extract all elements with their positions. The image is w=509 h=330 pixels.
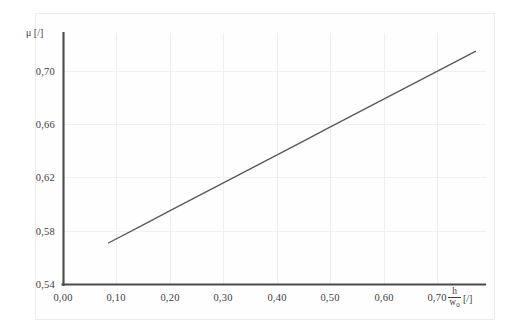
x-tick-label: 0,20 [150, 292, 190, 303]
axis-lines [63, 33, 486, 285]
x-tick-label: 0,60 [364, 292, 404, 303]
x-tick-label: 0,10 [96, 292, 136, 303]
y-tick-label: 0,66 [21, 119, 55, 130]
chart-figure: μ [/] 0,70 0,66 0,62 0,58 0,54 0,00 0,10… [0, 0, 509, 330]
x-tick-label: 0,00 [43, 292, 83, 303]
data-series-line [108, 51, 475, 243]
horizontal-gridlines [63, 72, 486, 232]
x-axis-title-numerator: h [450, 287, 459, 297]
y-tick-label: 0,54 [21, 279, 55, 290]
y-tick-label: 0,70 [21, 66, 55, 77]
y-tick-label: 0,62 [21, 172, 55, 183]
plot-canvas [0, 0, 509, 330]
vertical-gridlines [64, 33, 438, 284]
x-axis-title: h w0 [/] [448, 287, 472, 307]
x-tick-label: 0,30 [203, 292, 243, 303]
x-axis-title-unit: [/] [463, 293, 472, 304]
x-tick-label: 0,50 [310, 292, 350, 303]
y-axis-title: μ [/] [26, 27, 43, 38]
x-axis-title-denominator: w0 [448, 298, 460, 308]
x-tick-label: 0,40 [257, 292, 297, 303]
x-axis-title-fraction: h w0 [448, 287, 461, 307]
y-tick-label: 0,58 [21, 226, 55, 237]
